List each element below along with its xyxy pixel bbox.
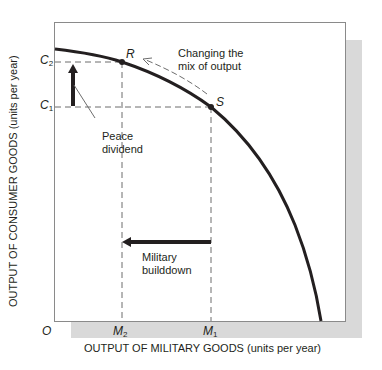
military-line-2: builddown bbox=[142, 264, 192, 277]
label-s: S bbox=[216, 96, 224, 109]
military-annotation: Military builddown bbox=[142, 251, 192, 277]
peace-line-2: dividend bbox=[102, 143, 143, 156]
tick-m2: M2 bbox=[113, 325, 127, 341]
label-r: R bbox=[126, 48, 135, 61]
y-axis-title: OUTPUT OF CONSUMER GOODS (units per year… bbox=[7, 55, 19, 307]
origin-label: O bbox=[42, 325, 51, 338]
ppc-diagram: C2 C1 O M2 M1 R S Changing the mix of ou… bbox=[0, 0, 382, 370]
tick-c1: C1 bbox=[40, 99, 53, 115]
tick-m1: M1 bbox=[203, 325, 217, 341]
point-s bbox=[208, 104, 214, 110]
peace-annotation: Peace dividend bbox=[102, 130, 143, 156]
military-line-1: Military bbox=[142, 251, 192, 264]
mix-annotation: Changing the mix of output bbox=[178, 47, 243, 73]
mix-line-2: mix of output bbox=[178, 60, 243, 73]
tick-c2: C2 bbox=[40, 54, 53, 70]
point-r bbox=[119, 59, 125, 65]
peace-line-1: Peace bbox=[102, 130, 143, 143]
x-axis-title: OUTPUT OF MILITARY GOODS (units per year… bbox=[84, 342, 321, 354]
shadow-right bbox=[346, 40, 362, 338]
mix-line-1: Changing the bbox=[178, 47, 243, 60]
